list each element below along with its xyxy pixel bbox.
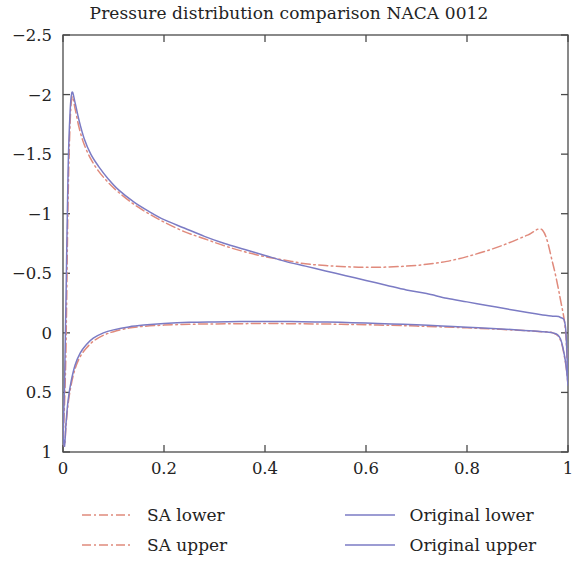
y-tick-label: 0 [42,324,53,343]
y-axis-ticks: −2.5−2−1.5−1−0.500.51 [12,26,568,462]
x-tick-label: 0.4 [252,459,278,478]
legend-swatch-original-upper [344,538,396,552]
x-tick-label: 0.2 [151,459,177,478]
axis-frame [63,35,568,452]
legend-label-original-upper: Original upper [410,535,537,555]
chart-figure: Pressure distribution comparison NACA 00… [0,0,578,563]
series-line-original-lower [63,321,568,446]
legend-swatch-original-lower [344,508,396,522]
legend-swatch-sa-lower [81,508,133,522]
series-line-sa-lower [63,324,568,447]
legend-label-sa-lower: SA lower [147,505,225,525]
y-tick-label: −1 [28,205,52,224]
chart-legend: SA lower Original lower SA upper Origina… [63,500,568,560]
y-tick-label: −2.5 [12,26,52,45]
legend-swatch-sa-upper [81,538,133,552]
legend-item-sa-lower: SA lower [63,505,316,525]
x-tick-label: 1 [563,459,574,478]
plot-canvas: 00.20.40.60.81 −2.5−2−1.5−1−0.500.51 [0,0,578,563]
legend-item-original-upper: Original upper [316,535,569,555]
y-tick-label: 1 [42,443,53,462]
x-tick-label: 0 [58,459,69,478]
legend-item-sa-upper: SA upper [63,535,316,555]
y-tick-label: −1.5 [12,145,52,164]
x-tick-label: 0.8 [454,459,480,478]
legend-label-original-lower: Original lower [410,505,534,525]
data-series-group [63,92,568,446]
y-tick-label: 0.5 [26,383,52,402]
legend-item-original-lower: Original lower [316,505,569,525]
legend-label-sa-upper: SA upper [147,535,227,555]
x-tick-label: 0.6 [353,459,379,478]
series-line-original-upper [63,92,568,440]
x-axis-ticks: 00.20.40.60.81 [58,35,574,478]
y-tick-label: −2 [28,86,52,105]
y-tick-label: −0.5 [12,264,52,283]
